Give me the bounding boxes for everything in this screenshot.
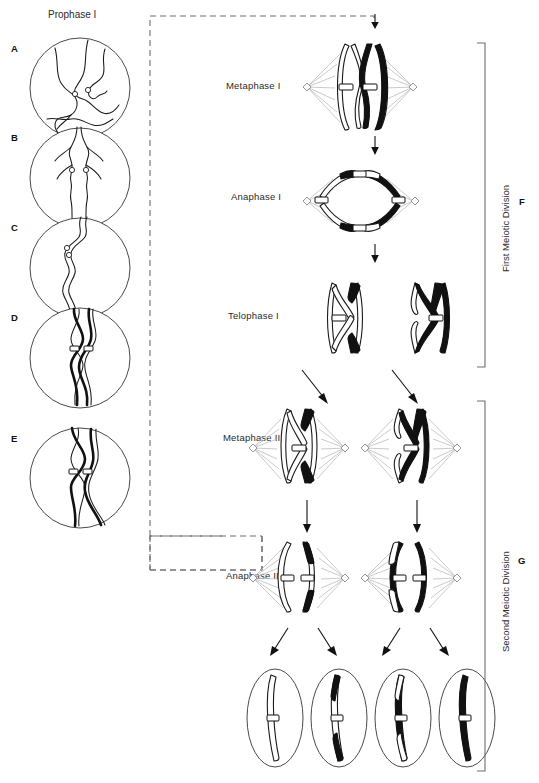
stage-label-metaphase-1: Metaphase I: [226, 80, 280, 91]
flow-arrow-gamete-2: [310, 626, 340, 658]
anaphase2-figure-left: [243, 538, 355, 616]
flow-arrow-gamete-3: [380, 626, 410, 658]
panel-letter-e: E: [11, 433, 17, 444]
metaphase1-figure: [295, 32, 425, 142]
panel-letter-a: A: [11, 43, 18, 54]
metaphase2-figure-left: [243, 403, 355, 491]
stage-label-telophase-1: Telophase I: [228, 310, 279, 321]
bracket-label-first-meiotic-division: First Meiotic Division: [500, 185, 511, 272]
flow-arrow-metaphase1-anaphase1: [368, 136, 382, 156]
panel-letter-b: B: [11, 132, 18, 143]
bracket-label-second-meiotic-division: Second Meiotic Division: [500, 551, 511, 652]
panel-letter-c: C: [11, 222, 18, 233]
flow-arrow-into-metaphase1: [368, 14, 382, 30]
flow-arrow-metaphase2-anaphase2-right: [410, 500, 424, 534]
anaphase1-figure: [293, 155, 427, 247]
bracket-second-meiotic-division: [476, 400, 490, 772]
flow-arrow-anaphase1-telophase1: [368, 244, 382, 264]
panel-letter-g: G: [518, 555, 525, 566]
bracket-first-meiotic-division: [476, 42, 490, 368]
gamete-cell-3: [372, 663, 434, 773]
panel-letter-d: D: [11, 312, 18, 323]
gamete-cell-2: [308, 663, 370, 773]
stage-label-anaphase-1: Anaphase I: [231, 191, 281, 202]
anaphase2-figure-right: [355, 538, 467, 616]
flow-arrow-metaphase2-anaphase2-left: [300, 500, 314, 534]
flow-arrow-telophase1-metaphase2-left: [300, 368, 334, 406]
telophase1-figure-right: [405, 277, 461, 359]
gamete-cell-1: [244, 663, 306, 773]
telophase1-figure-left: [318, 277, 374, 359]
flow-arrow-gamete-1: [268, 626, 298, 658]
flow-arrow-telophase1-metaphase2-right: [390, 368, 424, 406]
panel-letter-f: F: [519, 196, 525, 207]
metaphase2-figure-right: [355, 403, 467, 491]
flow-arrow-gamete-4: [422, 626, 452, 658]
